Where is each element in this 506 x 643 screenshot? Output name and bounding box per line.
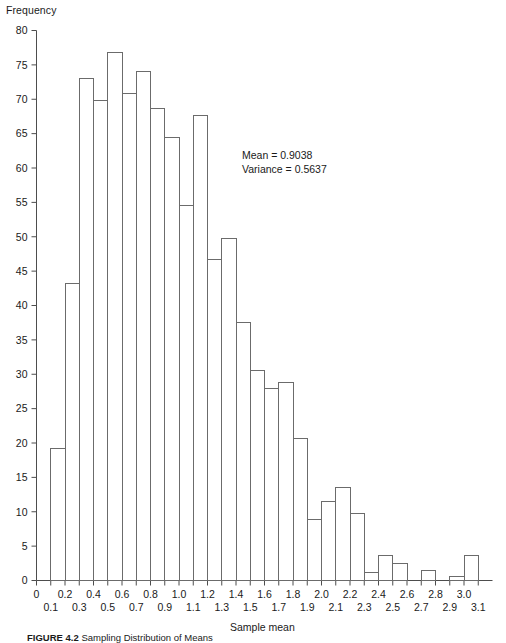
histogram-bar: [364, 572, 378, 580]
y-tick-label: 20: [16, 437, 28, 449]
x-tick-label: 1.0: [172, 588, 187, 600]
histogram-bar: [293, 439, 307, 581]
histogram-plot: 05101520253035404550556065707580 00.20.4…: [0, 0, 506, 643]
x-tick-label: 0.7: [129, 601, 144, 613]
x-tick-label: 1.8: [286, 588, 301, 600]
y-tick-label: 40: [16, 299, 28, 311]
histogram-bar: [379, 556, 393, 581]
histogram-bar: [336, 487, 350, 581]
x-axis-labels-lower: 0.10.30.50.70.91.11.31.51.71.92.12.32.52…: [43, 601, 485, 613]
statistics-annotation: Mean = 0.9038 Variance = 0.5637: [242, 148, 327, 176]
histogram-bars: [51, 53, 479, 581]
x-tick-label: 3.1: [471, 601, 486, 613]
x-tick-label: 1.1: [186, 601, 201, 613]
x-tick-label: 2.4: [371, 588, 386, 600]
x-tick-label: 3.0: [457, 588, 472, 600]
histogram-bar: [222, 239, 236, 581]
x-tick-label: 2.7: [414, 601, 429, 613]
histogram-bar: [122, 93, 136, 580]
histogram-bar: [65, 284, 79, 581]
x-tick-label: 2.8: [428, 588, 443, 600]
x-tick-label: 0.5: [100, 601, 115, 613]
histogram-bar: [179, 206, 193, 581]
y-tick-label: 25: [16, 402, 28, 414]
y-tick-label: 60: [16, 162, 28, 174]
mean-annotation: Mean = 0.9038: [242, 148, 327, 162]
y-tick-label: 30: [16, 368, 28, 380]
x-tick-label: 0.1: [43, 601, 58, 613]
histogram-bar: [94, 101, 108, 581]
y-tick-label: 65: [16, 127, 28, 139]
x-tick-label: 1.2: [200, 588, 215, 600]
x-tick-label: 1.7: [271, 601, 286, 613]
y-tick-label: 35: [16, 334, 28, 346]
x-tick-label: 2.1: [328, 601, 343, 613]
y-tick-label: 70: [16, 93, 28, 105]
histogram-bar: [265, 388, 279, 581]
x-axis-tick-group: [37, 581, 479, 586]
x-tick-label: 2.5: [385, 601, 400, 613]
histogram-bar: [322, 501, 336, 580]
histogram-bar: [208, 259, 222, 580]
y-tick-label: 80: [16, 24, 28, 36]
y-tick-label: 75: [16, 59, 28, 71]
x-tick-label: 0.4: [86, 588, 101, 600]
x-tick-label: 1.3: [214, 601, 229, 613]
figure-caption-label: FIGURE 4.2: [27, 632, 79, 643]
y-tick-label: 10: [16, 506, 28, 518]
y-tick-label: 5: [22, 540, 28, 552]
histogram-bar: [193, 116, 207, 581]
x-tick-label: 1.4: [229, 588, 244, 600]
histogram-bar: [165, 138, 179, 581]
histogram-bar: [236, 322, 250, 581]
histogram-bar: [279, 383, 293, 581]
histogram-bar: [350, 513, 364, 580]
x-tick-label: 1.5: [243, 601, 258, 613]
y-tick-label: 45: [16, 265, 28, 277]
y-tick-label: 0: [22, 574, 28, 586]
x-tick-label: 1.9: [300, 601, 315, 613]
y-tick-label: 15: [16, 471, 28, 483]
y-axis-tick-group: 05101520253035404550556065707580: [16, 24, 37, 586]
x-tick-label: 0.9: [157, 601, 172, 613]
histogram-bar: [464, 556, 478, 581]
histogram-bar: [450, 576, 464, 580]
x-tick-label: 0.6: [115, 588, 130, 600]
histogram-bar: [393, 563, 407, 580]
histogram-bar: [250, 371, 264, 581]
x-tick-label: 2.9: [442, 601, 457, 613]
x-tick-label: 0.8: [143, 588, 158, 600]
histogram-bar: [79, 79, 93, 581]
histogram-bar: [108, 53, 122, 581]
x-tick-label: 2.2: [343, 588, 358, 600]
x-axis-labels-upper: 00.20.40.60.81.01.21.41.61.82.02.22.42.6…: [34, 588, 472, 600]
x-tick-label: 0.3: [72, 601, 87, 613]
figure-container: Frequency 051015202530354045505560657075…: [0, 0, 506, 643]
variance-annotation: Variance = 0.5637: [242, 162, 327, 176]
figure-caption: FIGURE 4.2 Sampling Distribution of Mean…: [27, 632, 213, 643]
y-tick-label: 50: [16, 231, 28, 243]
histogram-bar: [136, 72, 150, 581]
x-tick-label: 2.6: [400, 588, 415, 600]
histogram-bar: [307, 519, 321, 580]
y-tick-label: 55: [16, 196, 28, 208]
x-tick-label: 1.6: [257, 588, 272, 600]
x-tick-label: 0: [34, 588, 40, 600]
x-tick-label: 2.3: [357, 601, 372, 613]
x-tick-label: 2.0: [314, 588, 329, 600]
x-tick-label: 0.2: [58, 588, 73, 600]
histogram-bar: [151, 109, 165, 581]
x-axis-title: Sample mean: [230, 621, 295, 633]
histogram-bar: [51, 449, 65, 581]
figure-caption-text: Sampling Distribution of Means: [81, 632, 212, 643]
histogram-bar: [421, 571, 435, 581]
